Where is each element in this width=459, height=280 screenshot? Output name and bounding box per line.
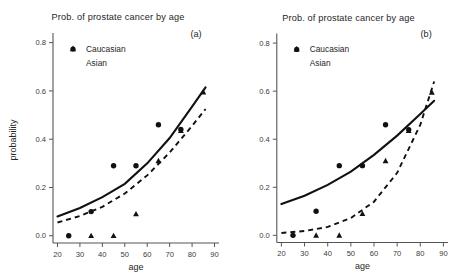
y-tick-label: 0.4 xyxy=(259,135,270,144)
x-tick-label: 60 xyxy=(143,250,151,259)
x-tick-label: 20 xyxy=(277,249,285,258)
legend-label-asian: Asian xyxy=(86,58,107,68)
y-tick-label: 0.6 xyxy=(259,87,270,96)
y-tick-label: 0.4 xyxy=(35,135,46,144)
data-point-caucasian xyxy=(313,209,318,214)
panel-b-x-ticks: 2030405060708090 xyxy=(277,243,447,259)
data-point-caucasian xyxy=(383,122,388,127)
data-point-asian xyxy=(336,232,342,237)
data-point-caucasian xyxy=(88,209,93,214)
data-point-asian xyxy=(383,158,389,163)
data-point-asian xyxy=(429,89,435,94)
fit-curve-asian xyxy=(57,109,205,222)
x-tick-label: 80 xyxy=(416,249,424,258)
legend-label-asian: Asian xyxy=(310,58,331,68)
panel-a-legend: Caucasian Asian xyxy=(70,44,126,68)
y-tick-label: 0.0 xyxy=(259,231,270,240)
y-tick-label: 0.6 xyxy=(35,87,46,96)
x-tick-label: 80 xyxy=(188,250,196,259)
panel-a-y-axis-title: probability xyxy=(8,119,18,161)
data-point-caucasian xyxy=(111,163,116,168)
data-point-caucasian xyxy=(337,163,342,168)
x-tick-label: 70 xyxy=(165,250,173,259)
data-point-asian xyxy=(111,233,117,238)
panel-b-markers xyxy=(290,89,434,238)
x-tick-label: 70 xyxy=(393,249,401,258)
fit-curve-asian xyxy=(281,82,434,233)
y-tick-label: 0.2 xyxy=(259,183,270,192)
panel-b-y-ticks: 0.00.20.40.60.8 xyxy=(259,39,276,240)
figure-prostate-cancer-probability: Prob. of prostate cancer by age (a) Cauc… xyxy=(0,0,459,280)
data-point-asian xyxy=(155,158,161,163)
panel-a-y-ticks: 0.00.20.40.60.8 xyxy=(35,38,53,240)
panel-b: Prob. of prostate cancer by age (b) Cauc… xyxy=(229,0,458,280)
panel-a-plot: Prob. of prostate cancer by age (a) Cauc… xyxy=(0,0,229,280)
panel-b-legend: Caucasian Asian xyxy=(294,44,350,68)
data-point-caucasian xyxy=(66,233,71,238)
legend-label-caucasian: Caucasian xyxy=(310,44,350,54)
panel-b-plot: Prob. of prostate cancer by age (b) Cauc… xyxy=(229,0,458,280)
panel-a-x-axis-title: age xyxy=(128,262,143,272)
y-tick-label: 0.8 xyxy=(35,38,46,47)
y-tick-label: 0.0 xyxy=(35,231,46,240)
data-point-caucasian xyxy=(156,122,161,127)
data-point-asian xyxy=(313,232,319,237)
y-tick-label: 0.8 xyxy=(259,39,270,48)
data-point-caucasian xyxy=(133,163,138,168)
x-tick-label: 90 xyxy=(439,249,447,258)
fit-curve-caucasian xyxy=(57,87,205,216)
y-tick-label: 0.2 xyxy=(35,183,46,192)
x-tick-label: 40 xyxy=(324,249,332,258)
x-tick-label: 50 xyxy=(347,249,355,258)
x-tick-label: 30 xyxy=(76,250,84,259)
data-point-asian xyxy=(88,233,94,238)
panel-a-x-ticks: 2030405060708090 xyxy=(53,243,218,259)
panel-b-tag: (b) xyxy=(421,29,432,39)
panel-a-markers xyxy=(66,89,206,238)
panel-a-curves xyxy=(57,87,205,222)
x-tick-label: 20 xyxy=(53,250,61,259)
data-point-caucasian xyxy=(360,163,365,168)
data-point-asian xyxy=(133,211,139,216)
x-tick-label: 50 xyxy=(121,250,129,259)
x-tick-label: 90 xyxy=(210,250,218,259)
panel-a-title: Prob. of prostate cancer by age xyxy=(52,12,185,22)
x-tick-label: 40 xyxy=(98,250,106,259)
panel-b-curves xyxy=(281,82,434,233)
data-point-caucasian xyxy=(290,233,295,238)
legend-label-caucasian: Caucasian xyxy=(86,44,126,54)
x-tick-label: 60 xyxy=(370,249,378,258)
panel-b-x-axis-title: age xyxy=(355,261,370,271)
panel-a: Prob. of prostate cancer by age (a) Cauc… xyxy=(0,0,229,280)
panel-b-title: Prob. of prostate cancer by age xyxy=(282,13,414,23)
panel-a-tag: (a) xyxy=(190,29,201,39)
fit-curve-caucasian xyxy=(281,101,434,204)
x-tick-label: 30 xyxy=(300,249,308,258)
